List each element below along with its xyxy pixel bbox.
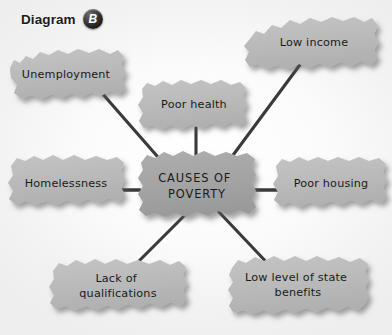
node-label-poor-health: Poor health — [161, 98, 227, 111]
page-title: Diagram — [21, 12, 76, 27]
node-low-income[interactable]: Low income — [244, 17, 379, 69]
node-line: Poor health — [161, 98, 227, 111]
diagram-header: Diagram B — [21, 9, 103, 29]
node-poor-health[interactable]: Poor health — [138, 80, 247, 129]
diagram-canvas: Diagram B — [0, 0, 392, 335]
node-line: Low level of state — [245, 271, 347, 284]
node-causes-of-poverty[interactable]: CAUSES OF POVERTY — [138, 151, 256, 217]
node-line: Homelessness — [25, 177, 108, 190]
diagram-svg: Unemployment Poor health Low income — [0, 0, 392, 335]
connector-low-level-of-state-benefits — [219, 212, 272, 268]
node-line: Low income — [280, 36, 349, 49]
node-lack-of-qualifications[interactable]: Lack of qualifications — [49, 259, 187, 310]
node-line: Poor housing — [294, 177, 369, 190]
node-label-unemployment: Unemployment — [22, 68, 111, 81]
node-line: Lack of — [95, 272, 137, 285]
node-line: POVERTY — [168, 187, 226, 201]
badge-letter: B — [88, 13, 97, 25]
node-line: benefits — [275, 286, 322, 299]
node-line: qualifications — [79, 287, 156, 300]
node-unemployment[interactable]: Unemployment — [10, 49, 126, 99]
node-low-level-of-state-benefits[interactable]: Low level of state benefits — [228, 256, 369, 314]
node-homelessness[interactable]: Homelessness — [8, 155, 125, 205]
node-label-homelessness: Homelessness — [25, 177, 108, 190]
node-line: Unemployment — [22, 68, 111, 81]
node-poor-housing[interactable]: Poor housing — [273, 157, 387, 207]
node-label-low-income: Low income — [280, 36, 349, 49]
diagram-label-badge: B — [83, 9, 103, 29]
node-label-poor-housing: Poor housing — [294, 177, 369, 190]
node-line: CAUSES OF — [158, 171, 231, 185]
